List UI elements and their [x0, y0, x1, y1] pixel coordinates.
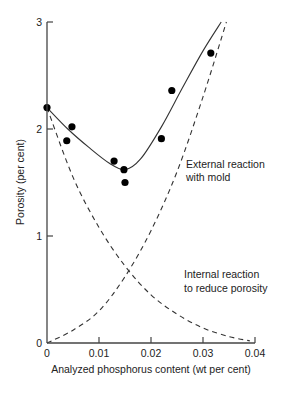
y-tick-label: 1 [36, 230, 42, 242]
x-tick-label: 0.04 [245, 347, 266, 359]
annotation-external-line2: with mold [185, 171, 231, 183]
data-point [207, 49, 214, 56]
dashed-curve [47, 108, 250, 341]
annotation-internal-line2: to reduce porosity [184, 282, 268, 294]
data-point [120, 166, 127, 173]
annotation-external-line1: External reaction [186, 158, 265, 170]
x-tick-label: 0.03 [193, 347, 214, 359]
data-point [121, 179, 128, 186]
x-tick-label: 0.02 [141, 347, 162, 359]
x-tick-label: 0 [44, 347, 50, 359]
annotation-internal: Internal reaction to reduce porosity [184, 268, 268, 294]
x-axis-label: Analyzed phosphorus content (wt per cent… [51, 363, 251, 375]
data-point [110, 158, 117, 165]
y-axis-label: Porosity (per cent) [14, 139, 26, 225]
annotation-external: External reaction with mold [185, 158, 268, 183]
data-point [158, 135, 165, 142]
y-tick-label: 2 [36, 123, 42, 135]
solid-curve [47, 22, 221, 170]
data-point [68, 123, 75, 130]
y-tick-label: 3 [36, 16, 42, 28]
annotation-internal-line1: Internal reaction [184, 268, 259, 280]
y-tick-label: 0 [36, 337, 42, 349]
data-point [63, 137, 70, 144]
porosity-chart: 0123 00.010.020.030.04 Analyzed phosphor… [0, 0, 284, 393]
x-tick-label: 0.01 [89, 347, 110, 359]
data-point [168, 87, 175, 94]
x-axis-ticks: 00.010.020.030.04 [44, 337, 265, 359]
y-axis-ticks: 0123 [36, 16, 53, 349]
